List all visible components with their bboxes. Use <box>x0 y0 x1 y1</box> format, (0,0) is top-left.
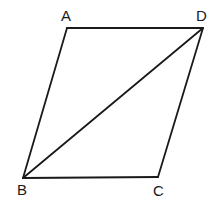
vertex-label-b: B <box>17 182 27 197</box>
figure-background <box>0 0 219 206</box>
vertex-label-d: D <box>196 8 207 23</box>
geometry-figure: A D B C <box>0 0 219 206</box>
parallelogram-diagram <box>0 0 219 206</box>
vertex-label-c: C <box>153 183 164 198</box>
vertex-label-a: A <box>61 8 71 23</box>
edge-bc <box>23 177 158 178</box>
